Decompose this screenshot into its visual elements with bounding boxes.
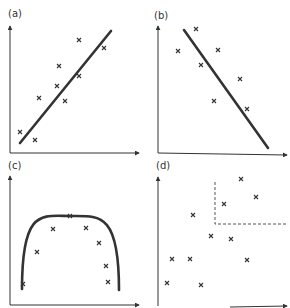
cross-marker-icon: [84, 226, 88, 230]
cross-marker-icon: [239, 177, 243, 181]
cross-marker-icon: [245, 107, 249, 111]
cross-marker-icon: [97, 241, 101, 245]
cross-marker-icon: [55, 84, 59, 88]
cross-marker-icon: [104, 264, 108, 268]
x-axis-d: [230, 306, 287, 307]
cross-marker-icon: [33, 138, 37, 142]
cross-marker-icon: [191, 213, 195, 217]
x-axis-b: [158, 153, 287, 155]
cross-marker-icon: [194, 27, 198, 31]
cross-marker-icon: [209, 234, 213, 238]
cross-marker-icon: [35, 250, 39, 254]
cross-marker-icon: [77, 74, 81, 78]
cross-marker-icon: [199, 283, 203, 287]
data-points: [18, 27, 258, 287]
cross-marker-icon: [37, 96, 41, 100]
cross-marker-icon: [188, 257, 192, 261]
cross-marker-icon: [102, 46, 106, 50]
cross-marker-icon: [199, 63, 203, 67]
cross-marker-icon: [18, 130, 22, 134]
trend-line-a: [20, 31, 111, 143]
cross-marker-icon: [165, 281, 169, 285]
cross-marker-icon: [254, 195, 258, 199]
cross-marker-icon: [77, 38, 81, 42]
cross-marker-icon: [57, 64, 61, 68]
cross-marker-icon: [245, 258, 249, 262]
scatter-diagrams: [0, 0, 290, 308]
cross-marker-icon: [238, 77, 242, 81]
axes: [10, 26, 287, 307]
cross-marker-icon: [229, 237, 233, 241]
cross-marker-icon: [170, 257, 174, 261]
cross-marker-icon: [106, 280, 110, 284]
trend-line-b: [184, 30, 268, 148]
cross-marker-icon: [176, 49, 180, 53]
cross-marker-icon: [216, 48, 220, 52]
cross-marker-icon: [222, 202, 226, 206]
trend-lines: [20, 30, 268, 290]
dashed-quadrant-d: [215, 182, 287, 224]
cross-marker-icon: [63, 99, 67, 103]
cross-marker-icon: [212, 99, 216, 103]
dashed-region: [215, 182, 287, 224]
cross-marker-icon: [51, 227, 55, 231]
